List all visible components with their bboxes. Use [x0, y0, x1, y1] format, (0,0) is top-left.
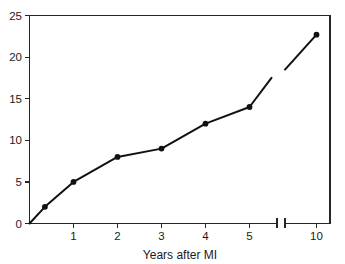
x-tick-label-3: 3: [158, 230, 164, 242]
data-point-marker: [247, 104, 253, 110]
data-series-line: [30, 32, 320, 224]
y-tick-label-20: 20: [9, 51, 22, 63]
data-point-marker: [71, 179, 77, 185]
data-point-marker: [203, 121, 209, 127]
y-tick-label-10: 10: [9, 134, 22, 146]
x-tick-label-5: 5: [246, 230, 252, 242]
x-tick-label-10: 10: [310, 230, 323, 242]
data-point-marker: [314, 32, 320, 38]
x-axis-title: Years after MI: [143, 248, 217, 262]
series-segment-before-break: [30, 78, 272, 224]
x-tick-label-4: 4: [202, 230, 209, 242]
chart-figure: 0 5 10 15 20 25 1 2 3 4 5 10 Years after…: [0, 0, 345, 264]
data-point-marker: [115, 154, 121, 160]
data-point-marker: [159, 146, 165, 152]
y-tick-label-15: 15: [9, 93, 22, 105]
y-tick-label-5: 5: [16, 176, 22, 188]
y-tick-label-25: 25: [9, 10, 22, 22]
data-point-marker: [42, 204, 48, 210]
y-tick-label-0: 0: [16, 218, 22, 230]
line-chart-plot: 0 5 10 15 20 25 1 2 3 4 5 10 Years after…: [0, 0, 345, 264]
x-tick-label-1: 1: [70, 230, 76, 242]
series-segment-after-break: [285, 35, 317, 70]
x-tick-label-2: 2: [114, 230, 120, 242]
